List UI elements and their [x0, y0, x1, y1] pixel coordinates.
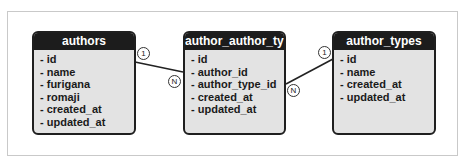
field: - romaji [40, 91, 134, 104]
field: - created_at [340, 78, 434, 91]
field-list: - id - name - furigana - romaji - create… [34, 50, 134, 129]
field: - created_at [40, 103, 134, 116]
field: - id [191, 53, 284, 66]
field: - furigana [40, 78, 134, 91]
relation-line-author-types [286, 59, 333, 84]
entity-title: author_types [334, 33, 434, 50]
cardinality-one-icon: 1 [318, 46, 331, 59]
field: - name [340, 66, 434, 79]
field-list: - id - name - created_at - updated_at [334, 50, 434, 103]
entity-authors[interactable]: authors - id - name - furigana - romaji … [32, 31, 136, 135]
cardinality-many-icon: N [287, 84, 300, 97]
field: - id [40, 53, 134, 66]
entity-title: author_author_type [185, 33, 284, 50]
field: - updated_at [40, 116, 134, 129]
entity-title: authors [34, 33, 134, 50]
field: - id [340, 53, 434, 66]
field: - name [40, 66, 134, 79]
field-list: - id - author_id - author_type_id - crea… [185, 50, 284, 116]
cardinality-one-icon: 1 [137, 47, 150, 60]
relation-line-authors [135, 62, 183, 72]
cardinality-many-icon: N [168, 75, 181, 88]
entity-author-types[interactable]: author_types - id - name - created_at - … [332, 31, 436, 135]
field: - created_at [191, 91, 284, 104]
field: - author_id [191, 66, 284, 79]
field: - updated_at [340, 91, 434, 104]
field: - author_type_id [191, 78, 284, 91]
entity-author-author-type[interactable]: author_author_type - id - author_id - au… [183, 31, 286, 135]
field: - updated_at [191, 103, 284, 116]
